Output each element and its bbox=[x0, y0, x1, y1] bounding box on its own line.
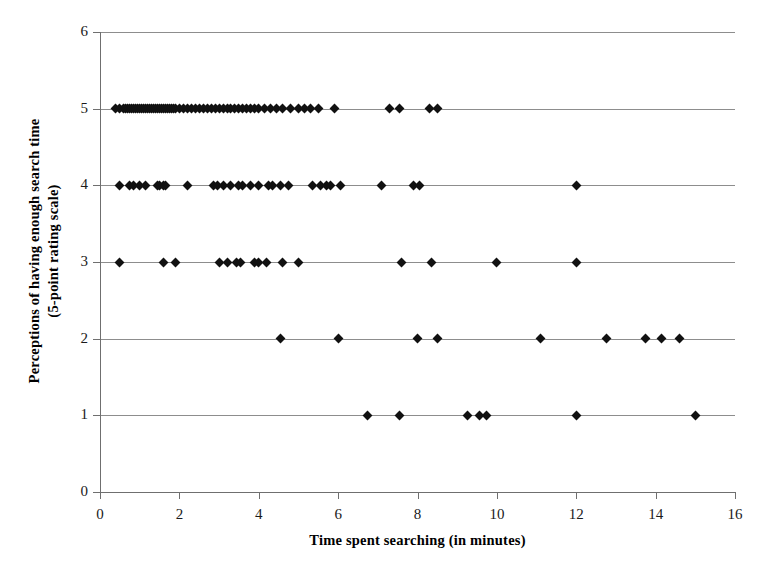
x-tick-label: 2 bbox=[159, 506, 199, 522]
x-tick-mark bbox=[576, 492, 577, 499]
data-point bbox=[415, 180, 425, 190]
data-point bbox=[272, 104, 282, 114]
data-point bbox=[278, 257, 288, 267]
data-point bbox=[182, 180, 192, 190]
data-point bbox=[147, 104, 157, 114]
data-point bbox=[234, 180, 244, 190]
data-point bbox=[284, 180, 294, 190]
data-point bbox=[145, 104, 155, 114]
data-point bbox=[170, 104, 180, 114]
data-point bbox=[125, 180, 135, 190]
data-point bbox=[190, 104, 200, 114]
gridline bbox=[100, 32, 735, 33]
data-point bbox=[305, 104, 315, 114]
data-point bbox=[226, 104, 236, 114]
data-point bbox=[536, 334, 546, 344]
x-tick-mark bbox=[100, 492, 101, 499]
data-point bbox=[153, 104, 163, 114]
x-tick-mark bbox=[735, 492, 736, 499]
data-point bbox=[474, 410, 484, 420]
data-point bbox=[254, 104, 264, 114]
data-point bbox=[222, 257, 232, 267]
data-point bbox=[432, 334, 442, 344]
data-point bbox=[409, 180, 419, 190]
y-axis-line bbox=[100, 32, 101, 492]
data-point bbox=[413, 334, 423, 344]
data-point bbox=[377, 180, 387, 190]
y-tick-mark bbox=[93, 262, 100, 263]
data-point bbox=[232, 257, 242, 267]
data-points-layer bbox=[100, 32, 735, 492]
data-point bbox=[214, 104, 224, 114]
data-point bbox=[266, 104, 276, 114]
y-tick-label: 6 bbox=[58, 24, 88, 39]
data-point bbox=[571, 180, 581, 190]
y-axis-title-line-2: (5-point rating scale) bbox=[44, 41, 63, 461]
data-point bbox=[141, 180, 151, 190]
data-point bbox=[571, 257, 581, 267]
data-point bbox=[129, 180, 139, 190]
data-point bbox=[133, 104, 143, 114]
data-point bbox=[182, 104, 192, 114]
data-point bbox=[293, 104, 303, 114]
data-point bbox=[208, 180, 218, 190]
data-point bbox=[137, 104, 147, 114]
data-point bbox=[111, 104, 121, 114]
data-point bbox=[262, 257, 272, 267]
gridlines bbox=[100, 32, 735, 492]
data-point bbox=[115, 180, 125, 190]
data-point bbox=[278, 104, 288, 114]
data-point bbox=[363, 410, 373, 420]
data-point bbox=[492, 257, 502, 267]
data-point bbox=[155, 180, 165, 190]
data-point bbox=[325, 180, 335, 190]
data-point bbox=[250, 257, 260, 267]
data-point bbox=[198, 104, 208, 114]
x-tick-label: 8 bbox=[398, 506, 438, 522]
x-tick-label: 6 bbox=[318, 506, 358, 522]
data-point bbox=[230, 104, 240, 114]
data-point bbox=[125, 104, 135, 114]
data-point bbox=[141, 104, 151, 114]
data-point bbox=[161, 104, 171, 114]
data-point bbox=[238, 180, 248, 190]
y-tick-mark bbox=[93, 109, 100, 110]
data-point bbox=[462, 410, 472, 420]
data-point bbox=[115, 257, 125, 267]
x-tick-label: 4 bbox=[239, 506, 279, 522]
data-point bbox=[397, 257, 407, 267]
data-point bbox=[155, 104, 165, 114]
data-point bbox=[242, 104, 252, 114]
x-tick-label: 12 bbox=[556, 506, 596, 522]
data-point bbox=[293, 257, 303, 267]
data-point bbox=[159, 104, 169, 114]
y-tick-mark bbox=[93, 339, 100, 340]
data-point bbox=[601, 334, 611, 344]
data-point bbox=[135, 104, 145, 114]
data-point bbox=[161, 180, 171, 190]
data-point bbox=[395, 410, 405, 420]
data-point bbox=[115, 104, 125, 114]
gridline bbox=[100, 339, 735, 340]
data-point bbox=[151, 104, 161, 114]
plot-area bbox=[100, 32, 735, 492]
data-point bbox=[218, 104, 228, 114]
y-tick-mark bbox=[93, 32, 100, 33]
data-point bbox=[254, 257, 264, 267]
data-point bbox=[226, 180, 236, 190]
data-point bbox=[385, 104, 395, 114]
data-point bbox=[166, 104, 176, 114]
data-point bbox=[143, 104, 153, 114]
data-point bbox=[321, 180, 331, 190]
y-tick-mark bbox=[93, 492, 100, 493]
data-point bbox=[119, 104, 129, 114]
y-axis-title: Perceptions of having enough search time… bbox=[25, 41, 63, 461]
scatter-chart: 0123456 0246810121416 Perceptions of hav… bbox=[0, 0, 760, 580]
x-tick-mark bbox=[338, 492, 339, 499]
data-point bbox=[250, 104, 260, 114]
data-point bbox=[157, 104, 167, 114]
data-point bbox=[276, 180, 286, 190]
data-point bbox=[426, 257, 436, 267]
data-point bbox=[153, 180, 163, 190]
x-tick-label: 16 bbox=[715, 506, 755, 522]
